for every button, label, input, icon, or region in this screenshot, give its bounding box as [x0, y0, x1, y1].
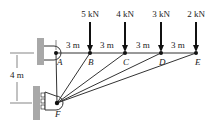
node-label-d: D	[158, 57, 166, 67]
load-label-e: 2 kN	[187, 9, 205, 19]
node-label-e: E	[194, 57, 201, 67]
node-label-f: F	[54, 109, 61, 119]
span-label-ab: 3 m	[66, 40, 80, 50]
load-label-d: 3 kN	[152, 9, 170, 19]
node-label-c: C	[123, 57, 130, 67]
span-label-bc: 3 m	[100, 40, 114, 50]
node-label-b: B	[88, 57, 94, 67]
load-label-b: 5 kN	[81, 9, 99, 19]
span-label-cd: 3 m	[136, 40, 150, 50]
wall-a	[37, 38, 44, 65]
node-label-a: A	[56, 57, 63, 67]
height-label: 4 m	[10, 70, 24, 80]
load-label-c: 4 kN	[116, 9, 134, 19]
span-label-de: 3 m	[171, 40, 185, 50]
wall-f	[33, 86, 40, 120]
truss-diagram: 5 kN 4 kN 3 kN 2 kN 3 m 3 m 3 m 3 m 4 m …	[0, 0, 213, 123]
